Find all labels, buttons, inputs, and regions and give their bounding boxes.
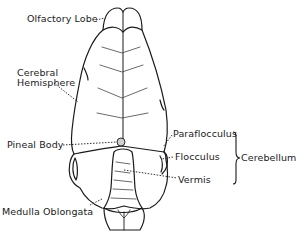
label-cerebral-hemisphere-line2: Hemisphere — [17, 78, 75, 88]
pineal-body-icon — [117, 138, 125, 146]
label-paraflocculus: Paraflocculus — [173, 129, 237, 139]
label-flocculus: Flocculus — [175, 152, 220, 162]
label-cerebellum: Cerebellum — [241, 153, 296, 163]
leader-vermis — [124, 170, 177, 178]
brain-diagram — [0, 0, 297, 233]
label-olfactory-lobe: Olfactory Lobe — [27, 14, 98, 24]
label-pineal-body: Pineal Body — [7, 140, 64, 150]
label-vermis: Vermis — [178, 175, 211, 185]
cerebral-hemisphere-outline — [72, 27, 168, 154]
label-medulla-oblongata: Medulla Oblongata — [2, 207, 93, 217]
cerebellum-brace — [233, 132, 240, 184]
